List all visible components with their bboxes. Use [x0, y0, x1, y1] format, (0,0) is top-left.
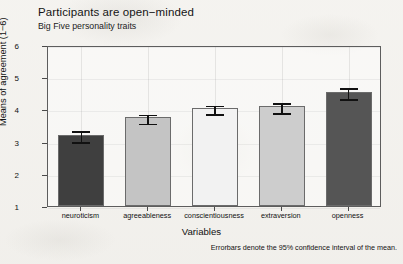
chart-caption: Errorbars denote the 95% confidence inte… [211, 243, 397, 252]
x-tick-label-openness: openness [314, 211, 381, 220]
y-tick-mark [42, 78, 47, 79]
errorbar-openness [348, 88, 350, 99]
bar-conscientiousness [192, 108, 238, 206]
y-tick-label-2: 2 [5, 170, 19, 179]
bar-openness [326, 92, 372, 206]
errorbar-cap-lower-neuroticism [72, 142, 90, 144]
y-tick-mark [42, 207, 47, 208]
errorbar-neuroticism [81, 131, 83, 142]
chart-header: Participants are open−minded Big Five pe… [38, 6, 194, 31]
gridline-horizontal [48, 47, 380, 48]
y-tick-label-1: 1 [5, 203, 19, 212]
errorbar-cap-lower-conscientiousness [206, 114, 224, 116]
x-axis-label: Variables [0, 226, 403, 237]
plot-area [47, 46, 381, 207]
errorbar-cap-upper-conscientiousness [206, 106, 224, 108]
y-tick-mark [42, 143, 47, 144]
errorbar-cap-lower-agreeableness [139, 124, 157, 126]
errorbar-cap-lower-extraversion [273, 113, 291, 115]
x-tick-label-conscientiousness: conscientiousness [181, 211, 248, 220]
y-tick-mark [42, 110, 47, 111]
gridline-horizontal [48, 79, 380, 80]
y-tick-mark [42, 46, 47, 47]
bar-neuroticism [58, 135, 104, 206]
errorbar-cap-upper-extraversion [273, 103, 291, 105]
y-axis-label: Means of agreement (1−6) [0, 17, 8, 126]
x-tick-label-agreeableness: agreeableness [114, 211, 181, 220]
chart-title: Participants are open−minded [38, 6, 194, 18]
x-tick-label-neuroticism: neuroticism [47, 211, 114, 220]
errorbar-cap-upper-openness [340, 88, 358, 90]
chart-subtitle: Big Five personality traits [38, 21, 194, 31]
y-tick-mark [42, 175, 47, 176]
errorbar-cap-lower-openness [340, 99, 358, 101]
errorbar-cap-upper-neuroticism [72, 131, 90, 133]
errorbar-cap-upper-agreeableness [139, 115, 157, 117]
y-tick-label-3: 3 [5, 138, 19, 147]
bar-extraversion [259, 106, 305, 206]
x-tick-label-extraversion: extraversion [247, 211, 314, 220]
bar-agreeableness [125, 117, 171, 206]
